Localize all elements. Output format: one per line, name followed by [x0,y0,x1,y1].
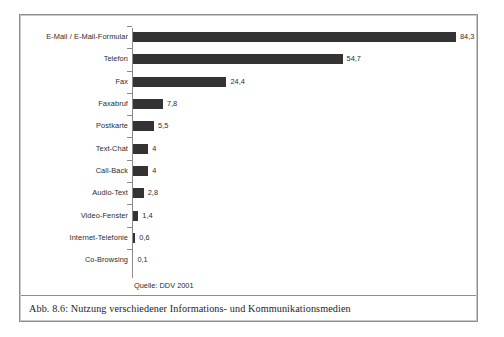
bar-row: Video-Fenster1,4 [20,204,477,226]
bar-row: Text-Chat4 [20,137,477,159]
bar-value-label: 1,4 [142,212,152,219]
source-note: Quelle: DDV 2001 [134,281,194,290]
bar [133,77,226,87]
figure-caption: Abb. 8.6: Nutzung verschiedener Informat… [29,303,351,314]
bar-chart-plot-area: E-Mail / E-Mail-Formular84,3Telefon54,7F… [20,15,477,296]
axis-tick [127,26,132,27]
axis-tick [127,137,132,138]
bar-row: Internet-Telefonie0,6 [20,227,477,249]
category-label: Video-Fenster [81,212,128,219]
bar-row: E-Mail / E-Mail-Formular84,3 [20,26,477,48]
caption-band: Abb. 8.6: Nutzung verschiedener Informat… [20,296,477,321]
category-label: Telefon [104,56,128,63]
bar-value-label: 54,7 [347,56,361,63]
axis-tick [127,93,132,94]
category-label: Postkarte [96,123,128,130]
bar-value-label: 84,3 [460,33,474,40]
axis-tick [127,115,132,116]
category-label: Fax [115,78,128,85]
bar [133,233,135,243]
axis-tick [127,249,132,250]
bar [133,188,144,198]
bar [133,32,456,42]
bar-row: Audio-Text2,8 [20,182,477,204]
axis-tick [127,204,132,205]
category-label: Co-Browsing [85,256,128,263]
axis-tick [127,160,132,161]
bar-value-label: 4 [152,167,156,174]
bar-value-label: 5,5 [158,123,168,130]
bar [133,54,343,64]
axis-tick [127,182,132,183]
bar-value-label: 0,1 [137,256,147,263]
bar-row: Faxabruf7,8 [20,93,477,115]
category-label: Faxabruf [98,100,128,107]
figure-frame: E-Mail / E-Mail-Formular84,3Telefon54,7F… [19,14,478,322]
bar-value-label: 7,8 [167,100,177,107]
bar-row: Postkarte5,5 [20,115,477,137]
bar-value-label: 24,4 [230,78,244,85]
bar [133,99,163,109]
bar-row: Call-Back4 [20,160,477,182]
figure-root: E-Mail / E-Mail-Formular84,3Telefon54,7F… [0,0,504,337]
bar-row: Telefon54,7 [20,48,477,70]
category-label: Call-Back [96,167,128,174]
bar-rows-container: E-Mail / E-Mail-Formular84,3Telefon54,7F… [20,26,477,271]
bar [133,211,138,221]
category-label: E-Mail / E-Mail-Formular [46,33,128,40]
bar [133,144,148,154]
bar-row: Co-Browsing0,1 [20,249,477,271]
axis-tick [127,71,132,72]
bar-value-label: 2,8 [148,190,158,197]
axis-tick [127,48,132,49]
category-label: Audio-Text [92,190,128,197]
bar-value-label: 4 [152,145,156,152]
bar [133,121,154,131]
bar-row: Fax24,4 [20,71,477,93]
category-label: Text-Chat [96,145,128,152]
axis-tick [127,227,132,228]
category-label: Internet-Telefonie [70,234,128,241]
bar [133,166,148,176]
bar-value-label: 0,6 [139,234,149,241]
